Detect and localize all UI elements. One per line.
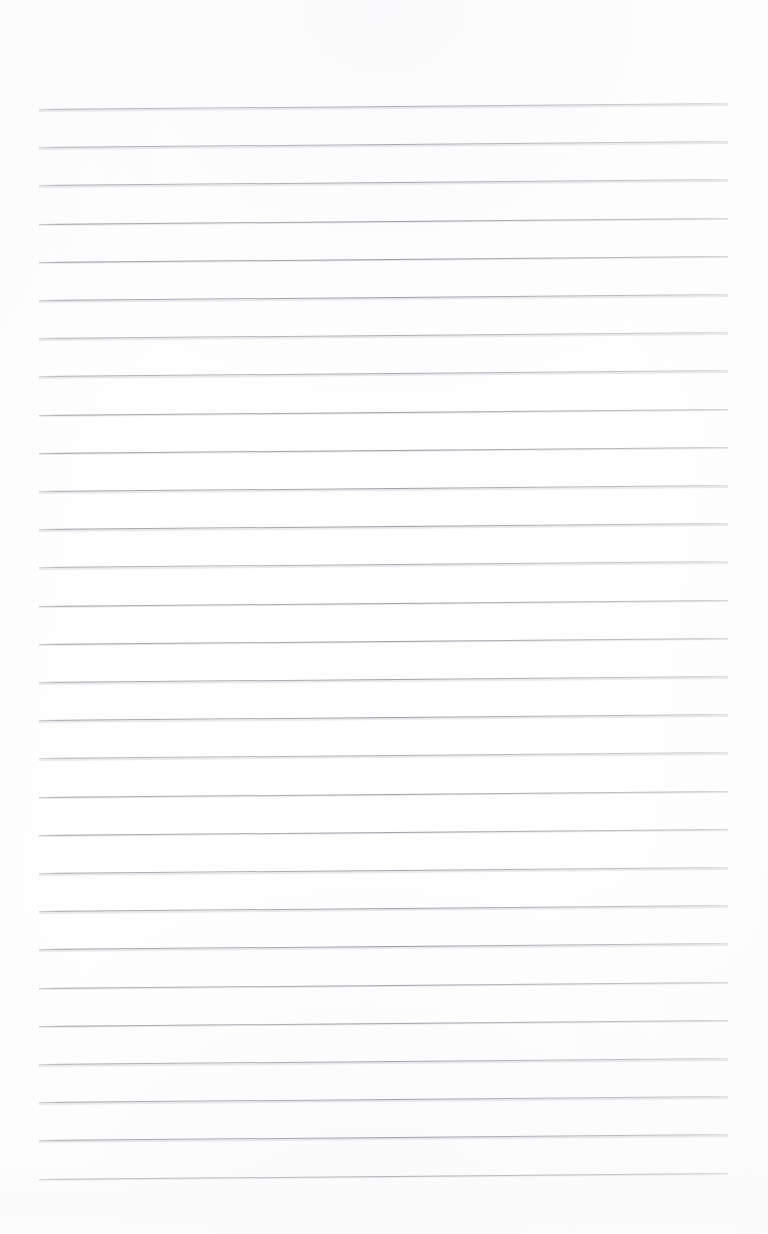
rule-line — [39, 409, 728, 416]
rule-line — [39, 1020, 728, 1027]
rule-line — [39, 791, 728, 798]
scanned-page — [0, 0, 768, 1234]
rule-line — [39, 447, 728, 454]
rule-line — [39, 218, 728, 225]
rule-line — [39, 256, 728, 263]
ruled-lines-layer — [0, 0, 768, 1234]
rule-line — [39, 982, 728, 989]
rule-line — [39, 1173, 728, 1180]
rule-line — [39, 638, 728, 645]
rule-line — [39, 829, 728, 836]
rule-line — [39, 600, 728, 607]
